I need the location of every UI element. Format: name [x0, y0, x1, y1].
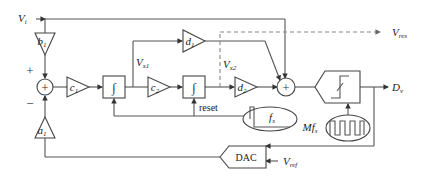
dac: DAC	[220, 146, 266, 168]
integrator-2: ∫	[183, 76, 205, 98]
svg-text:DAC: DAC	[235, 152, 256, 163]
output-adder: +	[277, 78, 295, 96]
sampling-clock-mfs	[326, 115, 370, 141]
vres-label: Vres	[392, 26, 407, 40]
vx2-label: Vx2	[223, 58, 237, 72]
gain-a1: a1	[35, 117, 55, 138]
gain-c1: c1	[67, 77, 89, 97]
quantizer	[315, 71, 360, 103]
mfs-label: Mfs	[302, 121, 318, 135]
reset-label: reset	[199, 102, 218, 113]
reset-clock-fs: fs	[243, 107, 297, 131]
vref-label: Vref	[283, 155, 298, 169]
gain-b1: b1	[35, 33, 55, 55]
vx1-label: Vx1	[136, 56, 149, 70]
minus-sign: −	[26, 96, 33, 111]
dv-label: Dv	[391, 81, 404, 95]
gain-d1: d1	[183, 30, 205, 52]
vi-label: Vi	[18, 12, 27, 26]
input-adder: +	[37, 79, 53, 95]
integrator-1: ∫	[103, 76, 125, 98]
svg-text:+: +	[41, 80, 48, 95]
modulator-diagram: + + − b1 a1 c1 ∫ c2 ∫ d1 d2	[0, 0, 424, 184]
gain-d2: d2	[235, 77, 257, 97]
plus-sign: +	[26, 63, 33, 78]
gain-c2: c2	[148, 77, 170, 97]
svg-text:+: +	[282, 80, 289, 95]
